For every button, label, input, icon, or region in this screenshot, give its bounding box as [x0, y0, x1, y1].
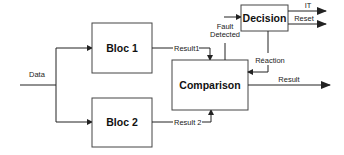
reaction-edge: Réaction — [248, 31, 285, 72]
result-label: Result — [278, 75, 300, 84]
bloc-2-box[interactable]: Bloc 2 — [92, 98, 152, 147]
reset-label: Reset — [294, 14, 315, 23]
bloc-2-label: Bloc 2 — [106, 116, 138, 128]
result2-label: Result 2 — [174, 118, 202, 127]
decision-box[interactable]: Decision — [241, 5, 288, 31]
it-label: IT — [305, 1, 312, 10]
comparison-box[interactable]: Comparison — [172, 60, 248, 110]
block-diagram: Data Bloc 1 Bloc 2 Result1 Result 2 Comp… — [0, 0, 344, 155]
result1-edge: Result1 — [152, 44, 210, 60]
result1-label: Result1 — [174, 44, 199, 53]
reaction-label: Réaction — [255, 56, 285, 65]
data-label: Data — [29, 70, 46, 79]
decision-label: Decision — [243, 12, 287, 24]
detected-label: Detected — [210, 30, 240, 39]
bloc-1-label: Bloc 1 — [106, 42, 138, 54]
reset-output-edge: Reset — [288, 14, 326, 24]
fault-detected-edge: Fault Detected — [210, 17, 241, 60]
result-output-edge: Result — [248, 75, 330, 85]
comparison-label: Comparison — [179, 79, 240, 91]
bloc-1-box[interactable]: Bloc 1 — [92, 23, 152, 73]
it-output-edge: IT — [288, 1, 326, 11]
data-input-edge: Data — [20, 48, 92, 122]
result2-edge: Result 2 — [152, 110, 211, 127]
